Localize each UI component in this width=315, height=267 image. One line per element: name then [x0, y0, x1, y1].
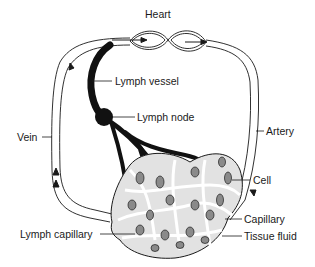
label-cell: Cell [253, 175, 271, 186]
label-heart: Heart [145, 9, 171, 20]
lymph-node-icon [95, 108, 113, 126]
label-tissue-fluid: Tissue fluid [244, 231, 297, 242]
label-artery: Artery [266, 126, 294, 137]
label-vein: Vein [17, 132, 37, 143]
label-lymph-vessel: Lymph vessel [115, 76, 179, 87]
label-lymph-node: Lymph node [137, 112, 194, 123]
tissue-bed [111, 153, 242, 258]
diagram-canvas: Heart Lymph vessel Lymph node Vein Arter… [0, 0, 315, 267]
label-lymph-capillary: Lymph capillary [20, 229, 93, 240]
label-capillary: Capillary [244, 214, 285, 225]
